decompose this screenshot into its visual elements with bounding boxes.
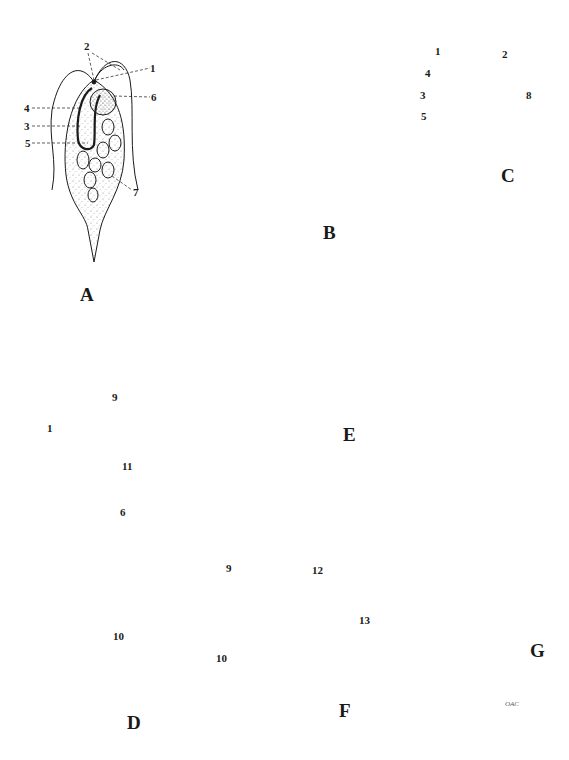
panel-label-d: D [127,712,141,734]
panel-label-e: E [343,424,356,446]
callout-c-3: 3 [420,89,426,101]
callout-c-8: 8 [526,89,532,101]
panel-label-g: G [530,640,545,662]
callout-c-4: 4 [425,67,431,79]
callout-f-13: 13 [359,614,370,626]
callout-f-12: 12 [312,564,323,576]
callout-c-5: 5 [421,110,427,122]
callout-a-5: 5 [25,137,31,149]
callout-d-1: 1 [47,422,53,434]
panel-label-b: B [323,222,336,244]
artist-signature: OAC [505,700,519,708]
callout-c-2: 2 [502,48,508,60]
panel-label-f: F [339,700,351,722]
callout-a-3: 3 [24,120,30,132]
callout-a-7: 7 [133,186,139,198]
callout-a-4: 4 [24,102,30,114]
callout-c-1: 1 [435,45,441,57]
panel-a-drawing [32,53,150,262]
callout-a-2: 2 [84,40,90,52]
figure-illustrations [0,0,569,760]
callout-d-6: 6 [120,506,126,518]
callout-a-1: 1 [150,62,156,74]
callout-d-9: 9 [112,391,118,403]
callout-f-9: 9 [226,562,232,574]
panel-label-c: C [501,165,515,187]
callout-d-10: 10 [113,630,124,642]
callout-a-6: 6 [151,91,157,103]
callout-d-11: 11 [122,460,132,472]
callout-f-10: 10 [216,652,227,664]
panel-label-a: A [80,284,94,306]
